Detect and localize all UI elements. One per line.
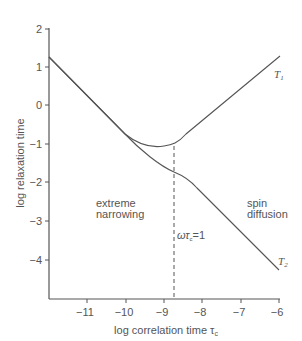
t1-label: T1: [274, 68, 284, 82]
y-axis-title: log relaxation time: [14, 118, 26, 207]
y-tick-label: −1: [29, 138, 42, 150]
x-tick-label: −11: [76, 306, 94, 318]
y-tick-label: −4: [29, 254, 42, 266]
y-tick-label: −3: [29, 215, 42, 227]
region-label-narrowing: narrowing: [96, 208, 144, 220]
relaxation-chart: 2 1 0 −1 −2 −3 −4 −11 −10 −9 −8 −7 −6 lo…: [0, 0, 302, 341]
y-tick-label: 2: [36, 23, 42, 35]
x-tick-label: −8: [194, 306, 207, 318]
x-tick-labels: −11 −10 −9 −8 −7 −6: [76, 306, 283, 318]
omega-tau-label: ωτc=1: [177, 229, 205, 242]
y-tick-label: −2: [29, 176, 42, 188]
t1-curve: [49, 56, 280, 147]
y-tick-labels: 2 1 0 −1 −2 −3 −4: [29, 23, 42, 266]
x-axis-title: log correlation time τc: [114, 324, 218, 337]
x-tick-label: −7: [233, 306, 246, 318]
x-tick-label: −9: [156, 306, 169, 318]
t2-curve: [49, 57, 279, 270]
region-label-diffusion: diffusion: [247, 208, 288, 220]
y-tick-label: 0: [36, 99, 42, 111]
x-tick-label: −6: [271, 306, 284, 318]
x-tick-label: −10: [115, 306, 134, 318]
t2-label: T2: [278, 255, 288, 269]
y-tick-label: 1: [36, 61, 42, 73]
